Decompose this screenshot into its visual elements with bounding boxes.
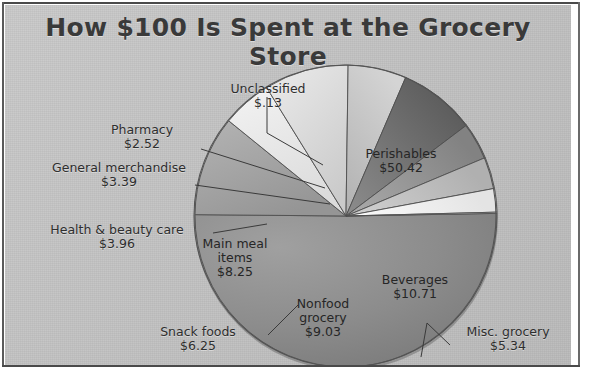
slice-label-nonfood-grocery-name: Nonfood — [297, 296, 350, 311]
callout-general-merchandise: General merchandise $3.39 — [39, 161, 199, 189]
callout-general-merchandise-name: General merchandise — [52, 160, 186, 175]
slice-label-perishables-name: Perishables — [365, 146, 436, 161]
slice-label-perishables: Perishables $50.42 — [341, 147, 461, 175]
callout-misc-grocery-name: Misc. grocery — [466, 324, 549, 339]
callout-unclassified-name: Unclassified — [230, 81, 305, 96]
slice-label-main-meal-name: Main meal — [203, 236, 268, 251]
callout-unclassified-amount: $.13 — [203, 96, 333, 110]
slice-label-beverages-name: Beverages — [382, 272, 448, 287]
page-rule-left — [2, 2, 4, 367]
callout-snack-foods: Snack foods $6.25 — [133, 325, 263, 353]
slice-label-perishables-amount: $50.42 — [341, 161, 461, 175]
slice-label-nonfood-grocery: Nonfood grocery $9.03 — [283, 297, 363, 339]
slice-label-main-meal-amount: $8.25 — [193, 265, 277, 279]
slice-label-beverages: Beverages $10.71 — [360, 273, 470, 301]
callout-general-merchandise-amount: $3.39 — [39, 175, 199, 189]
page-rule-right — [578, 2, 580, 367]
callout-pharmacy-name: Pharmacy — [111, 122, 173, 137]
slice-label-beverages-amount: $10.71 — [360, 287, 470, 301]
scanned-page: How $100 Is Spent at the Grocery Store — [0, 0, 604, 375]
callout-misc-grocery-amount: $5.34 — [445, 339, 571, 353]
slice-label-nonfood-grocery-name2: grocery — [283, 311, 363, 325]
page-rule-top — [2, 2, 580, 4]
callout-snack-foods-name: Snack foods — [160, 324, 236, 339]
slice-label-main-meal-name2: items — [193, 251, 277, 265]
callout-misc-grocery: Misc. grocery $5.34 — [445, 325, 571, 353]
chart-panel: How $100 Is Spent at the Grocery Store — [5, 5, 571, 365]
slice-label-nonfood-grocery-amount: $9.03 — [283, 325, 363, 339]
callout-health-beauty-care: Health & beauty care $3.96 — [27, 223, 207, 251]
callout-health-beauty-care-amount: $3.96 — [27, 237, 207, 251]
callout-snack-foods-amount: $6.25 — [133, 339, 263, 353]
page-rule-bottom — [2, 365, 580, 367]
callout-health-beauty-care-name: Health & beauty care — [50, 222, 183, 237]
callout-unclassified: Unclassified $.13 — [203, 82, 333, 110]
callout-pharmacy-amount: $2.52 — [83, 137, 201, 151]
callout-pharmacy: Pharmacy $2.52 — [83, 123, 201, 151]
